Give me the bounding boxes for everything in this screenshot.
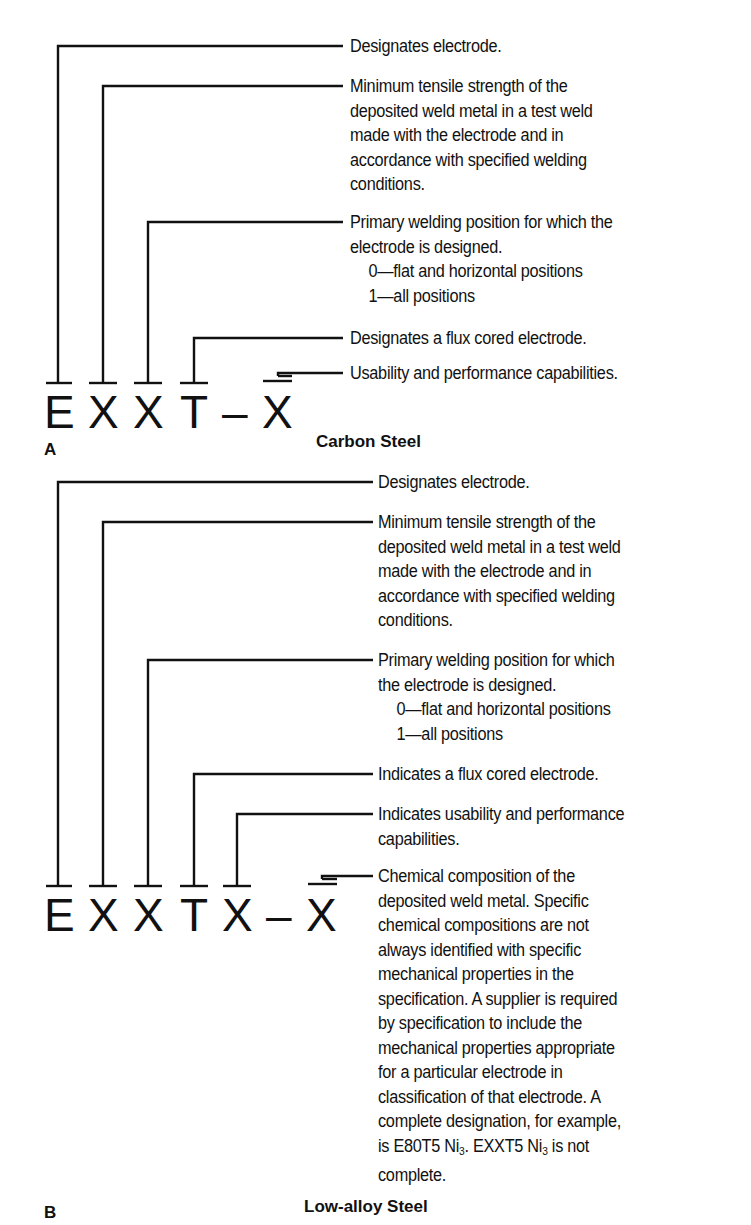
desc-line: the electrode is designed. (378, 673, 615, 698)
code-letter: X (133, 892, 164, 938)
leader-a-x2 (148, 222, 343, 383)
text: is not (548, 1136, 589, 1156)
text: . EXXT5 Ni (464, 1136, 542, 1156)
leader-b-e (58, 482, 373, 886)
desc-line: deposited weld metal in a test weld (350, 99, 593, 124)
code-dash: – (266, 892, 292, 938)
desc-line: for a particular electrode in (378, 1060, 621, 1085)
code-dash: – (222, 389, 248, 435)
desc-line: Designates electrode. (378, 472, 530, 492)
desc-line: by specification to include the (378, 1011, 621, 1036)
desc-line: Minimum tensile strength of the (378, 510, 621, 535)
desc-sub-item: 1—all positions (350, 284, 613, 309)
desc-b-usability: Indicates usability and performance capa… (378, 802, 624, 851)
desc-line: accordance with specified welding (378, 584, 621, 609)
leader-a-t (194, 338, 343, 383)
desc-line: electrode is designed. (350, 235, 613, 260)
desc-line: Minimum tensile strength of the (350, 74, 593, 99)
leader-b-t (194, 774, 373, 886)
desc-b-flux: Indicates a flux cored electrode. (378, 762, 599, 787)
desc-line: chemical compositions are not (378, 913, 621, 938)
code-letter: X (88, 892, 119, 938)
desc-line: conditions. (350, 172, 593, 197)
desc-line: Indicates usability and performance (378, 802, 624, 827)
desc-line: mechanical properties appropriate (378, 1036, 621, 1061)
desc-a-position: Primary welding position for which the e… (350, 210, 613, 308)
code-letter: E (44, 892, 75, 938)
figure-label-a: A (44, 440, 56, 460)
code-letter: X (88, 389, 119, 435)
desc-line: specification. A supplier is required (378, 987, 621, 1012)
leader-a-e (58, 46, 343, 383)
desc-line: Primary welding position for which the (350, 210, 613, 235)
desc-b-tensile: Minimum tensile strength of the deposite… (378, 510, 621, 633)
desc-line: accordance with specified welding (350, 148, 593, 173)
code-letter: T (180, 892, 208, 938)
desc-line: mechanical properties in the (378, 962, 621, 987)
code-letter: T (180, 389, 208, 435)
caption-low-alloy-steel: Low-alloy Steel (304, 1197, 428, 1217)
desc-sub-item: 0—flat and horizontal positions (378, 697, 615, 722)
desc-line: complete designation, for example, (378, 1109, 621, 1134)
desc-b-position: Primary welding position for which the e… (378, 648, 615, 746)
desc-line: Indicates a flux cored electrode. (378, 764, 599, 784)
classification-code-a: E X X T – X (0, 389, 320, 435)
desc-line: deposited weld metal. Specific (378, 889, 621, 914)
desc-line: conditions. (378, 608, 621, 633)
desc-a-usability: Usability and performance capabilities. (350, 361, 618, 386)
desc-line: classification of that electrode. A (378, 1085, 621, 1110)
desc-line: Designates electrode. (350, 36, 502, 56)
desc-a-electrode: Designates electrode. (350, 34, 502, 59)
desc-line: made with the electrode and in (350, 123, 593, 148)
desc-a-tensile: Minimum tensile strength of the deposite… (350, 74, 593, 197)
desc-line: Usability and performance capabilities. (350, 363, 618, 383)
desc-line: Chemical composition of the (378, 864, 621, 889)
classification-code-b: E X X T X – X (0, 892, 360, 938)
code-letter: X (222, 892, 253, 938)
code-letter: X (133, 389, 164, 435)
desc-line: capabilities. (378, 827, 624, 852)
desc-line: made with the electrode and in (378, 559, 621, 584)
desc-line: complete. (378, 1163, 621, 1188)
desc-b-chemical: Chemical composition of the deposited we… (378, 864, 621, 1188)
code-letter: E (44, 389, 75, 435)
figure-label-b: B (44, 1203, 56, 1223)
desc-line: deposited weld metal in a test weld (378, 535, 621, 560)
code-letter: X (262, 389, 293, 435)
text: is E80T5 Ni (378, 1136, 459, 1156)
desc-a-flux: Designates a flux cored electrode. (350, 326, 587, 351)
desc-line: Primary welding position for which (378, 648, 615, 673)
desc-b-electrode: Designates electrode. (378, 470, 530, 495)
desc-line-example: is E80T5 Ni3. EXXT5 Ni3 is not (378, 1134, 621, 1164)
desc-line: Designates a flux cored electrode. (350, 328, 587, 348)
desc-line: always identified with specific (378, 938, 621, 963)
desc-sub-item: 1—all positions (378, 722, 615, 747)
desc-sub-item: 0—flat and horizontal positions (350, 259, 613, 284)
code-letter: X (306, 892, 337, 938)
caption-carbon-steel: Carbon Steel (316, 432, 421, 452)
